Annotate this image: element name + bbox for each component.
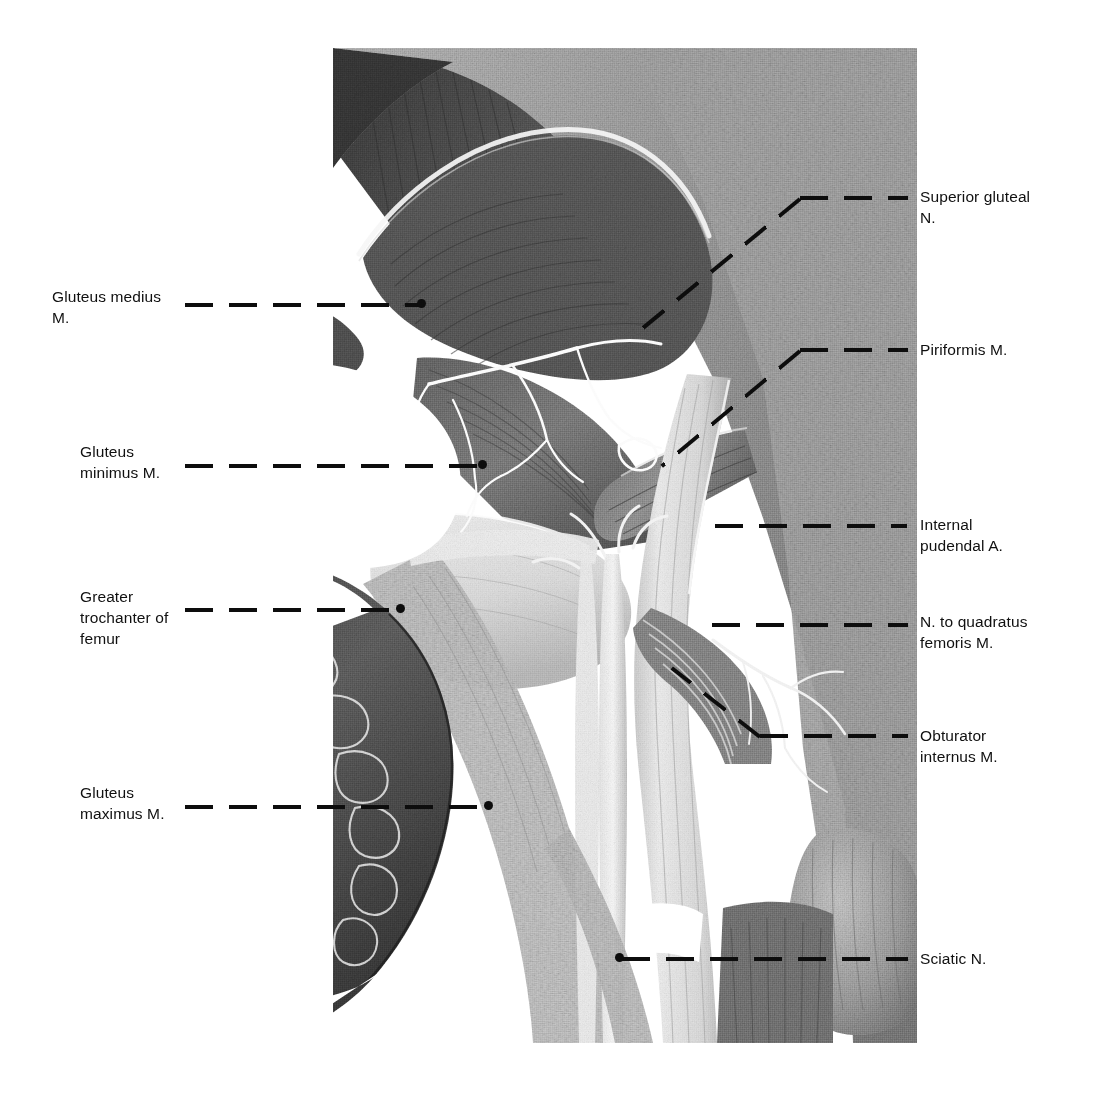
label-gluteus-minimus: Gluteus minimus M. [80, 441, 160, 483]
leader-superior-gluteal-nerve-horizontal [800, 196, 908, 200]
label-sciatic-nerve: Sciatic N. [920, 948, 986, 969]
leader-gluteus-maximus [185, 805, 490, 809]
label-greater-trochanter: Greater trochanter of femur [80, 586, 168, 649]
label-gluteus-medius: Gluteus medius M. [52, 286, 161, 328]
label-gluteus-maximus: Gluteus maximus M. [80, 782, 165, 824]
leader-dot-greater-trochanter [396, 604, 405, 613]
leader-gluteus-medius [185, 303, 421, 307]
label-internal-pudendal-artery: Internal pudendal A. [920, 514, 1003, 556]
leader-dot-gluteus-medius [417, 299, 426, 308]
leader-greater-trochanter [185, 608, 403, 612]
leader-dot-gluteus-maximus [484, 801, 493, 810]
leader-internal-pudendal-artery [715, 524, 907, 528]
label-obturator-internus: Obturator internus M. [920, 725, 998, 767]
leader-obturator-internus-horizontal [760, 734, 908, 738]
anatomical-figure: Gluteus medius M. Gluteus minimus M. Gre… [0, 0, 1097, 1095]
leader-gluteus-minimus [185, 464, 485, 468]
label-superior-gluteal-nerve: Superior gluteal N. [920, 186, 1030, 228]
label-nerve-to-quadratus-femoris: N. to quadratus femoris M. [920, 611, 1027, 653]
leader-dot-gluteus-minimus [478, 460, 487, 469]
leader-nerve-to-quadratus-femoris [712, 623, 908, 627]
leader-sciatic-nerve [622, 957, 908, 961]
leader-piriformis-horizontal [800, 348, 908, 352]
label-piriformis: Piriformis M. [920, 339, 1007, 360]
leader-dot-sciatic-nerve [615, 953, 624, 962]
